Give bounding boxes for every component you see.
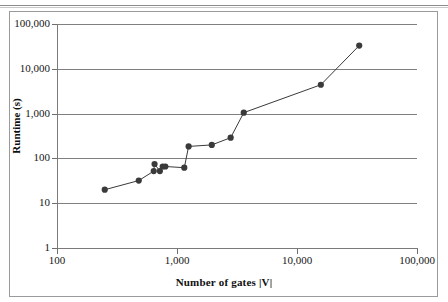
y-axis-labels: 1101001,00010,000100,000 bbox=[0, 0, 50, 302]
data-series bbox=[57, 24, 418, 249]
y-axis-tick-label: 10 bbox=[39, 197, 50, 208]
data-point bbox=[162, 163, 168, 169]
y-axis-tick-label: 100 bbox=[34, 152, 51, 163]
data-point bbox=[181, 165, 187, 171]
x-axis-tick-label: 1,000 bbox=[165, 255, 190, 266]
data-point bbox=[241, 110, 247, 116]
y-axis-tick-label: 100,000 bbox=[14, 18, 50, 29]
y-axis-tick-label: 10,000 bbox=[20, 63, 50, 74]
data-point bbox=[102, 187, 108, 193]
data-point bbox=[186, 143, 192, 149]
data-point bbox=[209, 142, 215, 148]
data-point bbox=[151, 168, 157, 174]
series-line bbox=[105, 46, 359, 190]
y-axis-tick-label: 1,000 bbox=[25, 108, 50, 119]
x-axis-title: Number of gates |V| bbox=[0, 276, 448, 288]
x-axis-tick-label: 100 bbox=[49, 255, 66, 266]
x-axis-tick-label: 10,000 bbox=[282, 255, 312, 266]
data-point bbox=[228, 135, 234, 141]
data-point bbox=[318, 82, 324, 88]
y-axis-title: Runtime (s) bbox=[10, 66, 22, 186]
y-axis-tick-label: 1 bbox=[45, 242, 51, 253]
data-point bbox=[136, 177, 142, 183]
data-point bbox=[356, 42, 362, 48]
x-axis-tick-label: 100,000 bbox=[399, 255, 435, 266]
data-point bbox=[151, 161, 157, 167]
top-rule bbox=[0, 5, 448, 6]
figure-container: 1101001,00010,000100,000 1001,00010,0001… bbox=[0, 0, 448, 302]
top-rule-secondary bbox=[0, 7, 448, 8]
